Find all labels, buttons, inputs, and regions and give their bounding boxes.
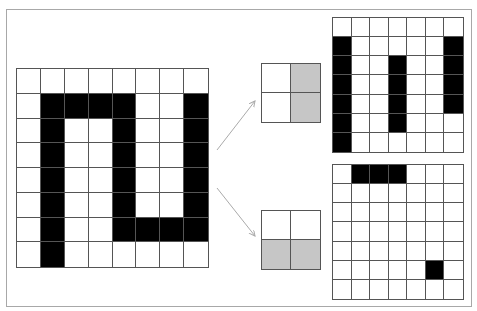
arrows: [0, 0, 477, 311]
arrow-to-horizontal-filter: [217, 188, 255, 236]
arrow-to-vertical-filter: [217, 101, 255, 150]
